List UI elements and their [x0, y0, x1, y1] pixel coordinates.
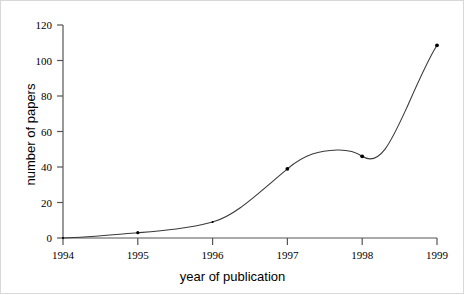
data-point-1996: [212, 221, 214, 223]
data-point-1998: [360, 154, 364, 158]
chart-figure: 0 20 40 60 80 100 120 1994 1995 1996 199…: [0, 0, 465, 295]
data-markers: [62, 43, 439, 239]
x-tick-label-1998: 1998: [351, 250, 373, 261]
y-tick-label-0: 0: [26, 233, 52, 244]
y-axis-ticks: [57, 25, 63, 238]
x-tick-label-1994: 1994: [52, 250, 74, 261]
data-point-1997: [286, 167, 290, 171]
data-point-1999: [435, 43, 439, 47]
x-tick-label-1999: 1999: [426, 250, 448, 261]
data-point-1995: [136, 231, 139, 234]
y-axis-title: number of papers: [24, 45, 37, 225]
x-tick-label-1997: 1997: [276, 250, 298, 261]
data-point-1994: [62, 237, 64, 239]
x-tick-label-1995: 1995: [127, 250, 149, 261]
y-tick-label-120: 120: [26, 20, 52, 31]
data-line-series-0: [63, 45, 437, 238]
x-axis-title: year of publication: [0, 270, 465, 283]
x-tick-label-1996: 1996: [202, 250, 224, 261]
x-axis-ticks: [63, 238, 437, 245]
